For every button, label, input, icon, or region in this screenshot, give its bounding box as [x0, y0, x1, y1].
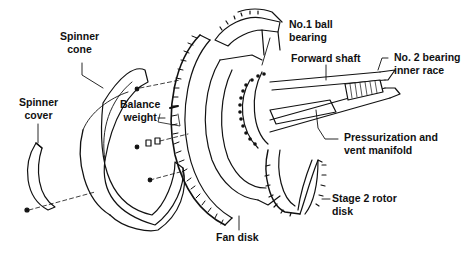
label-line: cone: [60, 43, 99, 56]
spinner-cone-part: [80, 69, 184, 231]
label-line: Spinner: [19, 96, 58, 109]
label-line: No.1 ball: [289, 18, 333, 31]
label-line: No. 2 bearing: [394, 51, 461, 64]
stage2-rotor-disk-part: [265, 150, 326, 216]
label-stage2-rotor-disk: Stage 2 rotor disk: [332, 192, 397, 218]
forward-shaft-part: [270, 70, 400, 132]
label-spinner-cover: Spinner cover: [19, 96, 58, 122]
label-balance-weight: Balance weight: [120, 98, 160, 124]
label-line: disk: [332, 205, 397, 218]
label-pressurization-vent-manifold: Pressurization and vent manifold: [344, 131, 438, 157]
label-line: Spinner: [60, 30, 99, 43]
label-line: cover: [19, 109, 58, 122]
label-line: inner race: [394, 64, 461, 77]
fan-disk-part: [171, 35, 280, 225]
label-line: bearing: [289, 31, 333, 44]
label-line: Fan disk: [216, 231, 259, 244]
fan-blade-segment: [215, 9, 282, 55]
label-forward-shaft: Forward shaft: [291, 52, 360, 65]
label-no1-ball-bearing: No.1 ball bearing: [289, 18, 333, 44]
spinner-cover-part: [28, 143, 55, 210]
label-line: Balance: [120, 98, 160, 111]
label-line: Forward shaft: [291, 52, 360, 65]
manifold-part: [270, 100, 336, 124]
leader-spinner-cone: [82, 63, 103, 88]
leader-no2-bearing: [378, 58, 388, 70]
label-no2-bearing-inner-race: No. 2 bearing inner race: [394, 51, 461, 77]
label-line: Stage 2 rotor: [332, 192, 397, 205]
spinner-screw: [25, 208, 29, 212]
label-spinner-cone: Spinner cone: [60, 30, 99, 56]
label-line: weight: [120, 111, 160, 124]
label-fan-disk: Fan disk: [216, 231, 259, 244]
label-line: Pressurization and: [344, 131, 438, 144]
label-line: vent manifold: [344, 144, 438, 157]
